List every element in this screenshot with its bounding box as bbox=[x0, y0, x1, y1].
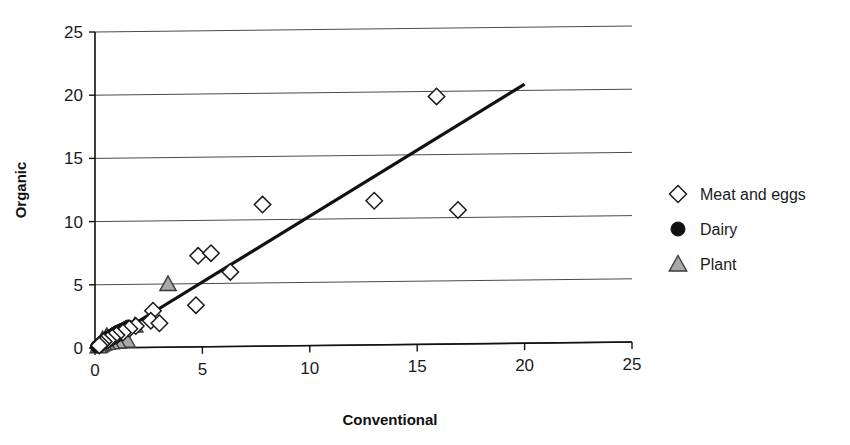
y-axis-tick-labels: 0510152025 bbox=[64, 23, 83, 358]
data-point bbox=[450, 202, 466, 218]
y-tick-label: 25 bbox=[64, 23, 83, 42]
x-tick-label: 25 bbox=[623, 355, 642, 374]
y-axis-ticks bbox=[89, 32, 95, 348]
legend-marker-dairy bbox=[671, 222, 685, 236]
x-tick-label: 20 bbox=[515, 356, 534, 375]
gridline bbox=[95, 152, 632, 158]
data-point bbox=[188, 297, 204, 313]
legend-label-dairy: Dairy bbox=[700, 221, 737, 238]
x-axis-tick-labels: 0510152025 bbox=[90, 355, 641, 380]
data-point bbox=[190, 248, 206, 264]
y-axis-title: Organic bbox=[12, 162, 29, 219]
legend-label-plant: Plant bbox=[700, 256, 737, 273]
data-point bbox=[366, 193, 382, 209]
legend-marker-plant bbox=[669, 256, 686, 271]
y-tick-label: 10 bbox=[64, 213, 83, 232]
gridline bbox=[95, 26, 632, 32]
gridline bbox=[95, 216, 632, 222]
legend-label-meat-and-eggs: Meat and eggs bbox=[700, 186, 806, 203]
gridline bbox=[95, 89, 632, 95]
x-tick-label: 10 bbox=[300, 359, 319, 378]
gridline bbox=[95, 279, 632, 285]
y-tick-label: 5 bbox=[74, 276, 83, 295]
legend-marker-meat-and-eggs bbox=[670, 186, 687, 203]
y-tick-label: 20 bbox=[64, 86, 83, 105]
legend: Meat and eggsDairyPlant bbox=[669, 186, 806, 274]
data-point bbox=[160, 276, 176, 291]
x-axis-title: Conventional bbox=[342, 411, 437, 428]
x-axis-ticks bbox=[95, 342, 632, 355]
data-point bbox=[222, 264, 238, 280]
scatter-plot-figure: 0510152025 0510152025 Conventional Organ… bbox=[0, 0, 850, 445]
chart-canvas: 0510152025 0510152025 Conventional Organ… bbox=[0, 0, 850, 445]
data-point bbox=[428, 88, 444, 104]
data-point bbox=[254, 196, 270, 212]
x-axis bbox=[95, 342, 632, 348]
data-point bbox=[203, 245, 219, 261]
y-tick-label: 15 bbox=[64, 149, 83, 168]
x-tick-label: 15 bbox=[408, 357, 427, 376]
y-tick-label: 0 bbox=[74, 339, 83, 358]
x-tick-label: 0 bbox=[90, 361, 99, 380]
x-tick-label: 5 bbox=[198, 360, 207, 379]
